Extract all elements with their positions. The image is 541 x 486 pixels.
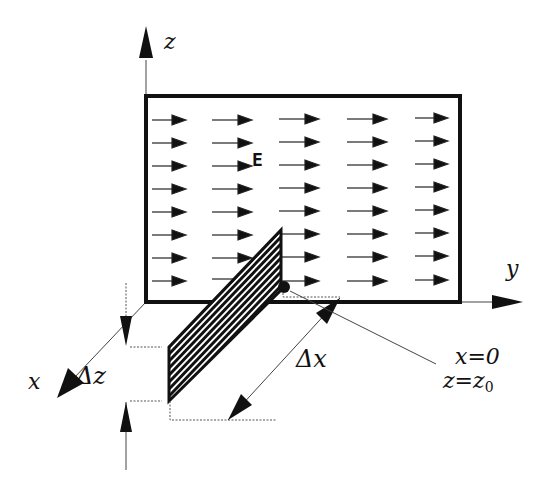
field-arrow-row [152,251,448,263]
field-arrows [152,113,448,286]
field-arrow-row [152,274,448,286]
z-axis-label: z [163,29,176,54]
point-annotation-x: x=0 [455,344,500,369]
field-arrow-row [152,113,448,125]
y-axis-arrow-icon [492,295,523,309]
field-arrow-row [152,136,448,148]
z-axis-arrow-icon [139,26,153,58]
point-annotation-z-sub: 0 [485,379,494,395]
delta-z-bottom-arrow-icon [120,402,132,432]
field-region [146,96,460,302]
field-arrow-row [152,205,448,217]
field-arrow-row [152,182,448,194]
point-annotation-z-main: z=z [442,368,485,393]
delta-z-dimension [120,316,132,470]
point-annotation-z: z=z0 [442,368,494,395]
field-label: E [252,149,263,170]
field-arrow-row [152,228,448,240]
delta-z-top-arrow-icon [120,316,132,346]
y-axis [460,295,523,309]
field-diagram: z y x [0,0,541,486]
y-axis-label: y [505,256,519,281]
x-axis-label: x [28,369,41,394]
hatched-strip [150,210,300,430]
reference-point [278,281,290,293]
delta-z-label: Δz [75,362,106,390]
field-arrow-row [152,159,448,171]
delta-x-label: Δx [295,345,327,373]
